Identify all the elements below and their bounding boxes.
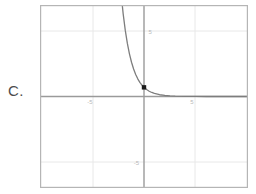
worksheet-page: C. -5 5 5 -5 [0,0,256,194]
graph-panel: -5 5 5 -5 [40,5,248,188]
xtick-label-minus5: -5 [87,99,93,105]
item-letter-label: C. [8,82,36,100]
y-intercept-point-marker [142,85,146,89]
ytick-label-minus5: -5 [134,160,140,166]
coordinate-plane-chart: -5 5 5 -5 [40,5,248,188]
